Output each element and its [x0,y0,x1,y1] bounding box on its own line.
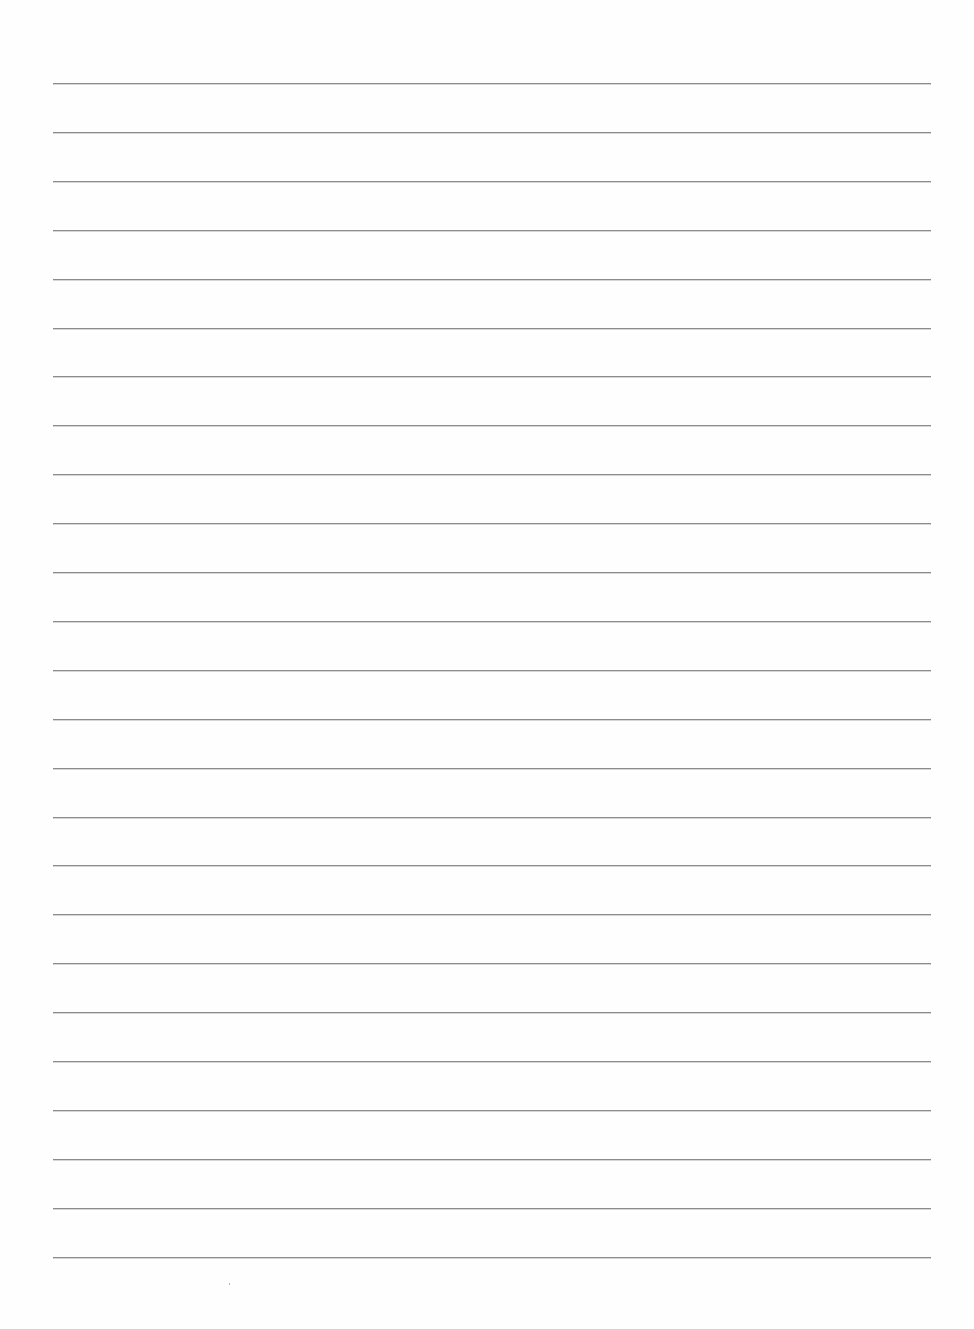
ruled-line [53,1061,931,1062]
ruled-line [53,181,931,182]
lined-paper-page [0,0,974,1329]
ruled-line [53,1257,931,1258]
ruled-line [53,670,931,671]
ruled-line [53,425,931,426]
ruled-line [53,1159,931,1160]
ruled-line [53,719,931,720]
ruled-line [53,572,931,573]
ruled-line [53,328,931,329]
ruled-line [53,83,931,84]
ruled-line [53,865,931,866]
ruled-line [53,817,931,818]
ruled-line [53,768,931,769]
ruled-line [53,230,931,231]
ruled-line [53,1012,931,1013]
ruled-line [53,279,931,280]
ruled-line [53,621,931,622]
ruled-line [53,914,931,915]
ruled-line [53,963,931,964]
scan-speck [229,1283,230,1285]
ruled-line [53,376,931,377]
ruled-line [53,132,931,133]
ruled-line [53,1208,931,1209]
ruled-line [53,474,931,475]
ruled-line [53,523,931,524]
ruled-line [53,1110,931,1111]
